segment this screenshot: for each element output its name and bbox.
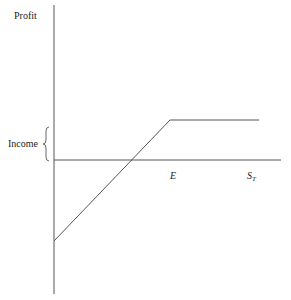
profit-line — [54, 120, 259, 241]
strike-label: E — [170, 170, 176, 182]
payoff-diagram — [0, 0, 291, 300]
income-label: Income — [8, 138, 38, 150]
income-brace — [43, 127, 49, 161]
x-axis-label-subscript: T — [252, 175, 256, 183]
x-axis-label: ST — [247, 170, 256, 185]
y-axis-label: Profit — [14, 10, 37, 22]
